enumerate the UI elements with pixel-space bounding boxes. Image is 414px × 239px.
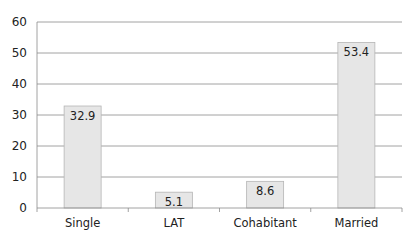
value-label: 8.6 xyxy=(256,184,274,198)
y-tick-label: 30 xyxy=(12,108,27,122)
category-label: LAT xyxy=(164,216,186,230)
value-label: 53.4 xyxy=(344,45,370,59)
category-label: Single xyxy=(65,216,100,230)
category-label: Cohabitant xyxy=(234,216,298,230)
value-label: 5.1 xyxy=(165,195,183,209)
category-label: Married xyxy=(334,216,378,230)
y-tick-label: 50 xyxy=(12,46,27,60)
y-tick-label: 20 xyxy=(12,139,27,153)
y-tick-label: 0 xyxy=(19,201,27,215)
x-axis-category-labels: SingleLATCohabitantMarried xyxy=(65,216,378,230)
bar-married xyxy=(338,42,375,208)
value-label: 32.9 xyxy=(70,109,96,123)
y-tick-label: 10 xyxy=(12,170,27,184)
bar-chart: 0102030405060 32.95.18.653.4 SingleLATCo… xyxy=(0,0,414,239)
bars: 32.95.18.653.4 xyxy=(64,42,375,209)
y-axis-tick-labels: 0102030405060 xyxy=(12,15,27,215)
x-axis xyxy=(37,208,402,212)
y-tick-label: 40 xyxy=(12,77,27,91)
y-tick-label: 60 xyxy=(12,15,27,29)
